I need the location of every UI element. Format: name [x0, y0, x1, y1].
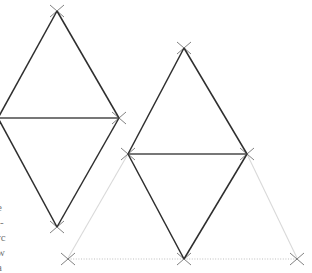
margin-text-fragment: e l- rc w a: [0, 200, 16, 273]
left-rhombus-edge-bottom-right: [57, 118, 119, 227]
figure-canvas: e l- rc w a: [0, 0, 312, 273]
left-rhombus-edge-top-left: [0, 11, 57, 118]
margin-text-line-1: e: [0, 200, 16, 215]
marker-left-apex-icon: [50, 5, 64, 17]
geometric-figure: [0, 0, 312, 273]
margin-text-line-4: w: [0, 245, 16, 260]
left-rhombus: [0, 11, 119, 227]
faint-leg-right: [247, 154, 297, 258]
marker-right-bottom-icon: [177, 253, 191, 265]
vertex-markers: [50, 5, 304, 265]
margin-text-line-3: rc: [0, 230, 16, 245]
marker-baseline-left-icon: [61, 253, 75, 265]
margin-text-line-5: a: [0, 260, 16, 273]
right-rhombus: [128, 48, 247, 259]
right-rhombus-edge-top-right: [184, 48, 247, 154]
margin-text-line-2: l-: [0, 215, 16, 230]
right-rhombus-edge-top-left: [128, 48, 184, 154]
right-rhombus-edge-bottom-right: [184, 154, 247, 259]
faint-triangle-legs: [68, 154, 297, 258]
left-rhombus-edge-top-right: [57, 11, 119, 118]
faint-leg-left: [68, 154, 128, 258]
right-rhombus-edge-bottom-left: [128, 154, 184, 259]
marker-baseline-right-icon: [290, 253, 304, 265]
marker-left-bottom-icon: [50, 221, 64, 233]
marker-right-apex-icon: [177, 42, 191, 54]
